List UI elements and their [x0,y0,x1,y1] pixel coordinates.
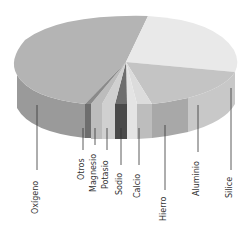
label-oxigeno: Oxígeno [31,181,40,214]
label-hierro: Hierro [159,197,168,221]
label-aluminio: Aluminio [192,161,201,196]
label-calcio: Calcio [133,174,142,198]
label-potasio: Potasio [101,160,110,189]
label-magnesio: Magnesio [89,154,98,192]
label-otros: Otros [77,158,86,180]
pie-top [14,16,237,104]
label-silice: Silice [225,177,234,198]
label-sodio: Sodio [115,173,124,195]
